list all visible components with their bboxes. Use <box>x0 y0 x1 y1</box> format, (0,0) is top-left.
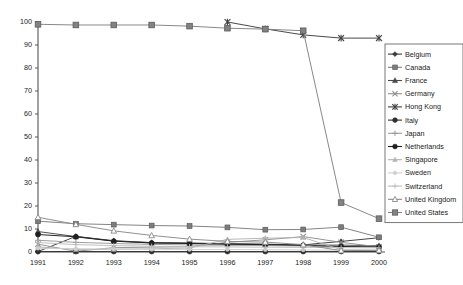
data-point-marker <box>187 23 193 29</box>
data-point-marker <box>393 65 398 70</box>
series-line <box>38 221 379 237</box>
data-point-marker <box>74 247 78 251</box>
data-point-marker <box>263 26 269 32</box>
y-axis-tick-label: 60 <box>24 109 32 118</box>
data-point-marker <box>149 22 155 28</box>
y-axis-tick-label: 100 <box>20 17 32 26</box>
data-point-marker <box>301 227 306 232</box>
data-series-group <box>35 19 382 254</box>
series-united-states <box>35 22 382 222</box>
series-line <box>38 24 379 218</box>
data-point-marker <box>376 216 382 222</box>
x-axis-tick-label: 1993 <box>106 258 122 267</box>
y-axis-tick-label: 20 <box>24 201 32 210</box>
data-point-marker <box>300 28 306 34</box>
legend-item-label: Singapore <box>405 155 438 164</box>
data-point-marker <box>35 22 41 28</box>
legend-item-label: France <box>405 76 427 85</box>
data-point-marker <box>393 144 398 149</box>
chart-legend: BelgiumCanadaFranceGermanyHong KongItaly… <box>385 44 463 223</box>
data-point-marker <box>73 234 78 239</box>
y-axis-tick-label: 70 <box>24 86 32 95</box>
x-axis-tick-label: 1995 <box>182 258 198 267</box>
data-point-marker <box>225 25 231 31</box>
line-chart-plot: 0102030405060708090100 19911992199319941… <box>0 0 463 285</box>
data-point-marker <box>392 210 397 215</box>
data-point-marker <box>393 171 397 175</box>
data-point-marker <box>36 246 40 250</box>
data-point-marker <box>35 214 41 219</box>
legend-item-label: United States <box>405 208 449 217</box>
data-point-marker <box>187 224 192 229</box>
axis-lines <box>38 21 385 252</box>
legend-item-label: Netherlands <box>405 142 444 151</box>
legend-item-label: United Kingdom <box>405 195 456 204</box>
data-point-marker <box>339 225 344 230</box>
legend-item-label: Hong Kong <box>405 102 441 111</box>
x-axis-tick-label: 1999 <box>333 258 349 267</box>
data-point-marker <box>377 235 382 240</box>
legend-item-label: Japan <box>405 129 425 138</box>
y-axis-tick-label: 80 <box>24 63 32 72</box>
y-axis-tick-label: 50 <box>24 132 32 141</box>
series-canada <box>36 219 382 240</box>
x-axis-tick-label: 1997 <box>257 258 273 267</box>
data-point-marker <box>393 118 398 123</box>
y-axis-tick-label: 40 <box>24 155 32 164</box>
legend-item-label: Canada <box>405 63 430 72</box>
data-point-marker <box>149 223 154 228</box>
x-axis-tick-group: 1991199219931994199519961997199819992000 <box>30 258 387 267</box>
legend-item-label: Germany <box>405 89 435 98</box>
data-point-marker <box>111 22 117 28</box>
legend-item-label: Sweden <box>405 168 431 177</box>
x-axis-tick-label: 1992 <box>68 258 84 267</box>
data-point-marker <box>263 227 268 232</box>
data-point-marker <box>36 232 41 237</box>
data-point-marker <box>225 225 230 230</box>
data-point-marker <box>73 22 79 28</box>
x-axis-tick-label: 2000 <box>371 258 387 267</box>
x-axis-tick-label: 1996 <box>219 258 235 267</box>
y-axis-tick-label: 90 <box>24 40 32 49</box>
x-axis-tick-label: 1998 <box>295 258 311 267</box>
x-axis-tick-label: 1991 <box>30 258 46 267</box>
x-axis-tick-label: 1994 <box>144 258 160 267</box>
chart-container: 0102030405060708090100 19911992199319941… <box>0 0 463 285</box>
y-axis-tick-label: 30 <box>24 178 32 187</box>
y-axis-tick-label: 10 <box>24 224 32 233</box>
y-axis-tick-label: 0 <box>28 247 32 256</box>
legend-item-label: Belgium <box>405 50 431 59</box>
data-point-marker <box>338 200 344 206</box>
legend-item-label: Switzerland <box>405 182 442 191</box>
data-point-marker <box>111 222 116 227</box>
legend-item-label: Italy <box>405 116 419 125</box>
